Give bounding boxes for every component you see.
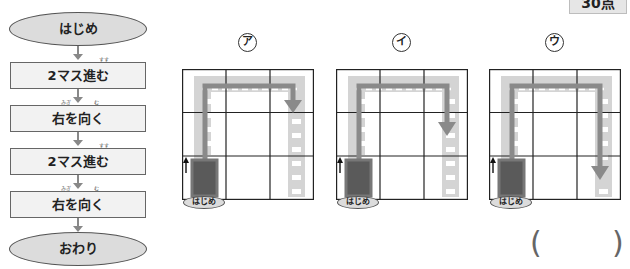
step-3-text: 2マス進む <box>47 154 108 169</box>
answer-field[interactable] <box>548 230 608 260</box>
option-label-u: ウ <box>545 33 564 52</box>
answer-close-paren: ) <box>612 228 624 258</box>
start-tag-u: はじめ <box>490 196 532 209</box>
option-label-i: イ <box>392 33 411 52</box>
option-grid-u[interactable] <box>489 69 621 200</box>
step-1-ruby: すす <box>99 56 109 62</box>
option-grid-i[interactable] <box>336 69 468 200</box>
car-icon <box>346 160 371 196</box>
flowchart-step-1: 2マス進む すす <box>10 62 146 89</box>
direction-up-head-icon <box>337 157 343 163</box>
step-4-text: 右を向く <box>52 197 104 212</box>
car-icon <box>499 160 524 196</box>
route-arrow <box>512 86 600 171</box>
step-2-text: 右を向く <box>52 111 104 126</box>
flowchart-start: はじめ <box>9 12 147 46</box>
flow-arrow-head-icon <box>73 183 83 189</box>
route-arrow <box>205 86 293 161</box>
step-3-ruby: すす <box>99 142 109 148</box>
flow-arrow-head-icon <box>73 97 83 103</box>
step-1-text: 2マス進む <box>47 68 108 83</box>
start-tag-a: はじめ <box>183 196 225 209</box>
direction-up-head-icon <box>490 157 496 163</box>
flowchart-step-2: 右を向く みぎ む <box>10 105 146 132</box>
option-label-a: ア <box>238 33 257 52</box>
step-4-ruby-mu: む <box>94 185 99 191</box>
route-arrow <box>359 86 447 161</box>
flowchart-end: おわり <box>9 232 147 266</box>
step-4-ruby-migi: みぎ <box>61 185 71 191</box>
flowchart-step-4: 右を向く みぎ む <box>10 191 146 218</box>
option-grid-a[interactable] <box>182 69 314 200</box>
flowchart-step-3: 2マス進む すす <box>10 148 146 175</box>
flow-arrow-head-icon <box>73 54 83 60</box>
step-2-ruby-mu: む <box>94 99 99 105</box>
answer-open-paren: ( <box>530 228 542 258</box>
score-badge: 30点 <box>569 0 627 14</box>
car-icon <box>192 160 217 196</box>
start-tag-i: はじめ <box>337 196 379 209</box>
step-2-ruby-migi: みぎ <box>61 99 71 105</box>
direction-up-head-icon <box>183 157 189 163</box>
flow-arrow-head-icon <box>73 140 83 146</box>
